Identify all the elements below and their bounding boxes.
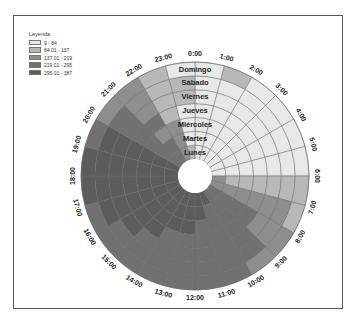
hour-label: 19:00 (71, 135, 82, 154)
legend-item: 84.01 - 137 (29, 47, 72, 54)
heatmap-cell (195, 246, 217, 262)
hour-label: 5:00 (308, 137, 318, 152)
hour-label: 11:00 (217, 288, 236, 299)
legend-label: 295.01 - 387 (44, 70, 72, 76)
legend-item: 219.01 - 295 (29, 62, 72, 69)
hour-label: 18:00 (69, 167, 76, 185)
legend-item: 9 - 84 (29, 39, 72, 46)
legend-swatch (29, 47, 41, 53)
day-ring-label: Viernes (182, 92, 209, 101)
heatmap-cell (123, 176, 139, 195)
day-ring-label: Martes (183, 134, 207, 143)
center-hole (178, 159, 212, 193)
hour-label: 2:00 (249, 63, 265, 76)
heatmap-cell (265, 154, 281, 176)
day-ring-label: Domingo (179, 65, 212, 74)
hour-label: 3:00 (274, 82, 289, 97)
legend-label: 137.01 - 219 (44, 55, 72, 61)
hour-label: 20:00 (81, 105, 96, 124)
hour-label: 7:00 (307, 200, 317, 215)
legend-swatch (29, 70, 41, 76)
heatmap-cell (195, 233, 214, 249)
legend-label: 84.01 - 137 (44, 47, 69, 53)
hour-label: 22:00 (124, 62, 143, 77)
legend: Leyenda 9 - 84 84.01 - 137 137.01 - 219 … (29, 31, 72, 77)
day-ring-label: Lunes (184, 148, 206, 157)
legend-label: 219.01 - 295 (44, 62, 72, 68)
hour-label: 8:00 (294, 229, 307, 245)
heatmap-cell (109, 154, 125, 176)
day-ring-label: Jueves (182, 106, 207, 115)
legend-label: 9 - 84 (44, 40, 57, 46)
hour-label: 23:00 (154, 52, 173, 63)
heatmap-cell (109, 176, 125, 198)
hour-label: 1:00 (219, 52, 234, 62)
hour-label: 12:00 (186, 294, 204, 301)
heatmap-cell (173, 246, 195, 262)
hour-label: 13:00 (154, 288, 173, 299)
hour-label: 0:00 (188, 50, 202, 57)
legend-item: 295.01 - 387 (29, 69, 72, 76)
day-ring-label: Sábado (181, 78, 209, 87)
legend-item: 137.01 - 219 (29, 54, 72, 61)
legend-swatch (29, 40, 41, 46)
hour-label: 6:00 (314, 169, 321, 183)
day-ring-label: Miércoles (178, 120, 213, 129)
legend-swatch (29, 62, 41, 68)
legend-swatch (29, 55, 41, 61)
hour-label: 17:00 (72, 198, 83, 217)
heatmap-cell (252, 157, 268, 176)
hour-label: 4:00 (295, 107, 308, 123)
heatmap-cell (265, 176, 281, 198)
legend-title: Leyenda (29, 31, 72, 37)
